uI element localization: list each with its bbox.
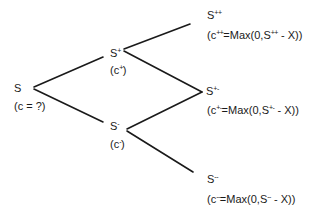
upup-option-sup2: ++ — [271, 29, 278, 36]
downdown-option-sup: -- — [216, 193, 220, 200]
down-stock-sup: - — [117, 120, 119, 127]
updown-stock-sup: +- — [213, 85, 218, 92]
downdown-option-mid: =Max(0,S — [220, 193, 267, 205]
up-option-label: (c+) — [110, 64, 126, 78]
downdown-option-label: (c--=Max(0,S-- - X)) — [207, 193, 295, 207]
downdown-option-pre: (c — [207, 193, 216, 205]
edge-root-up — [34, 57, 103, 87]
down-stock-label: S- — [110, 120, 119, 134]
updown-option-sup2: +- — [269, 104, 274, 111]
updown-stock-label: S+- — [206, 85, 219, 99]
updown-option-pre: (c — [207, 104, 216, 116]
downdown-stock-label: S-- — [207, 173, 218, 187]
up-option-sup: + — [119, 64, 123, 71]
up-stock-sup: + — [117, 47, 121, 54]
downdown-option-post: - X)) — [271, 193, 295, 205]
updown-option-sup: +- — [216, 104, 221, 111]
edge-up-updown — [124, 51, 202, 92]
down-option-post: ) — [121, 138, 125, 150]
edge-down-updown — [127, 92, 202, 129]
up-stock-label: S+ — [110, 47, 121, 61]
upup-stock-sup: ++ — [214, 9, 221, 16]
up-option-pre: (c — [110, 64, 119, 76]
upup-option-sup: ++ — [216, 29, 223, 36]
edge-down-downdown — [127, 131, 193, 172]
root-stock-text: S — [14, 82, 21, 94]
edge-up-upup — [124, 24, 190, 49]
upup-option-label: (c++=Max(0,S++ - X)) — [207, 29, 302, 43]
upup-option-mid: =Max(0,S — [223, 29, 270, 41]
down-option-sup: - — [119, 138, 121, 145]
downdown-option-sup2: -- — [267, 193, 271, 200]
upup-option-pre: (c — [207, 29, 216, 41]
root-stock-label: S — [14, 82, 21, 95]
downdown-stock-sup: -- — [214, 173, 218, 180]
upup-option-post: - X)) — [278, 29, 302, 41]
updown-option-post: - X)) — [274, 104, 298, 116]
upup-stock-label: S++ — [207, 9, 222, 23]
updown-option-mid: =Max(0,S — [222, 104, 269, 116]
root-option-label: (c = ?) — [14, 100, 45, 113]
down-option-pre: (c — [110, 138, 119, 150]
up-option-post: ) — [123, 64, 127, 76]
updown-option-label: (c+-=Max(0,S+- - X)) — [207, 104, 299, 118]
down-option-label: (c-) — [110, 138, 125, 152]
root-option-text: (c = ?) — [14, 100, 45, 112]
